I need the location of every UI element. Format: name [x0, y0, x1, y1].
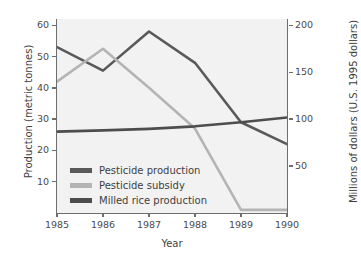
y-axis-right-spine	[287, 19, 288, 213]
x-axis-tick-label: 1988	[175, 219, 215, 230]
legend-label: Milled rice production	[99, 193, 207, 208]
x-axis-tick-label: 1986	[83, 219, 123, 230]
y-axis-left-tick	[52, 150, 56, 151]
y-axis-left-tick	[52, 118, 56, 119]
legend-label: Pesticide subsidy	[99, 178, 185, 193]
y-axis-right-tick	[289, 25, 293, 26]
y-axis-right-tick-label: 150	[295, 66, 327, 77]
series-line	[57, 118, 287, 132]
y-axis-left-tick	[52, 87, 56, 88]
x-axis-tick	[286, 213, 287, 217]
y-axis-left-title: Production (metric tonnes)	[23, 28, 34, 196]
y-axis-left-spine	[56, 19, 57, 213]
chart-figure: 1020304050605010015020019851986198719881…	[0, 0, 361, 260]
x-axis-tick-label: 1987	[129, 219, 169, 230]
y-axis-right-title: Millions of dollars (U.S. 1995 dollars)	[348, 12, 359, 212]
y-axis-left-tick	[52, 56, 56, 57]
legend-swatch	[70, 168, 92, 173]
x-axis-tick-label: 1989	[221, 219, 261, 230]
y-axis-right-tick-label: 100	[295, 113, 327, 124]
y-axis-right-tick-label: 200	[295, 19, 327, 30]
y-axis-left-tick	[52, 25, 56, 26]
x-axis-tick	[102, 213, 103, 217]
x-axis-tick-label: 1990	[267, 219, 307, 230]
x-axis-spine	[56, 213, 288, 214]
legend-item[interactable]: Pesticide production	[70, 163, 207, 178]
y-axis-right-tick-label: 50	[295, 160, 327, 171]
legend-item[interactable]: Milled rice production	[70, 193, 207, 208]
legend-swatch	[70, 183, 92, 188]
x-axis-tick-label: 1985	[37, 219, 77, 230]
x-axis-tick	[240, 213, 241, 217]
x-axis-tick	[194, 213, 195, 217]
y-axis-right-tick	[289, 72, 293, 73]
chart-legend: Pesticide productionPesticide subsidyMil…	[70, 163, 207, 208]
legend-item[interactable]: Pesticide subsidy	[70, 178, 207, 193]
legend-label: Pesticide production	[99, 163, 200, 178]
x-axis-tick	[56, 213, 57, 217]
y-axis-right-tick	[289, 165, 293, 166]
legend-swatch	[70, 198, 92, 203]
x-axis-tick	[148, 213, 149, 217]
y-axis-left-tick	[52, 181, 56, 182]
x-axis-title: Year	[116, 238, 228, 249]
y-axis-right-tick	[289, 118, 293, 119]
